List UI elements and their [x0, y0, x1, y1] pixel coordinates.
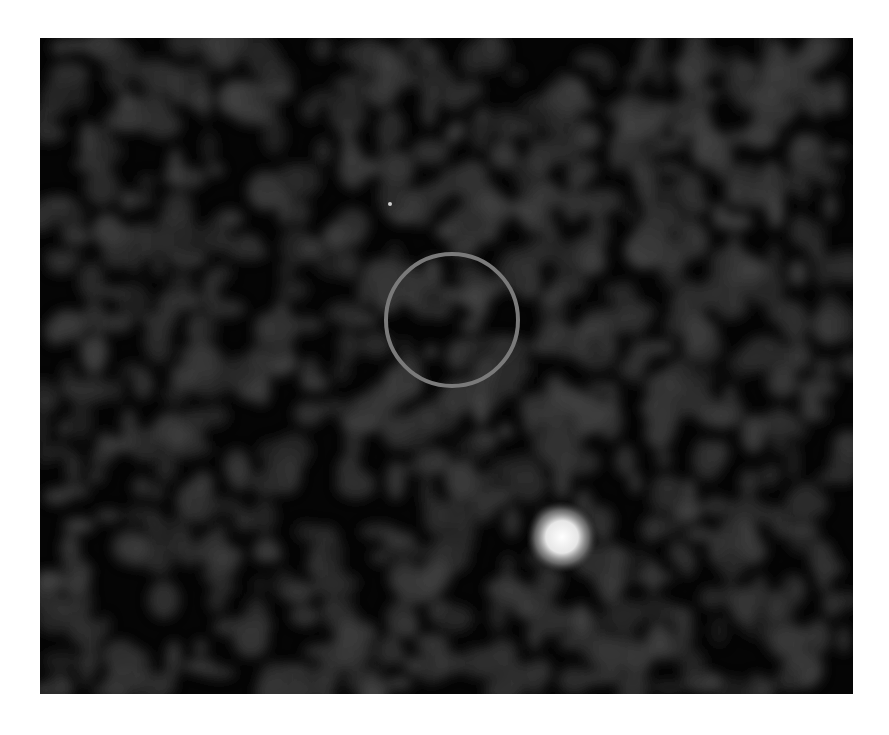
sky-image	[40, 38, 853, 694]
bright-source	[526, 501, 598, 573]
astronomical-image-frame	[40, 38, 853, 694]
faint-speck	[388, 202, 392, 206]
